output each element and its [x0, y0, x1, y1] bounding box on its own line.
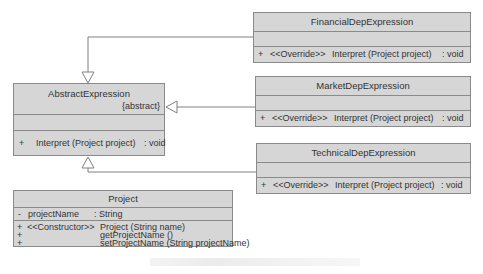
method-visibility: +	[261, 180, 266, 190]
figure-caption-blurred	[150, 258, 360, 266]
method-stereotype: <<Override>>	[270, 49, 326, 59]
class-name: AbstractExpression	[14, 88, 164, 99]
class-name: FinancialDepExpression	[254, 13, 470, 32]
attributes-compartment	[14, 115, 164, 131]
attributes-compartment	[254, 32, 470, 47]
methods-compartment: + <<Override>> Interpret (Project projec…	[257, 178, 470, 193]
class-header: AbstractExpression {abstract}	[14, 84, 164, 115]
method-stereotype: <<Override>>	[273, 180, 329, 190]
class-name: TechnicalDepExpression	[257, 144, 470, 163]
class-financial-dep-expression[interactable]: FinancialDepExpression + <<Override>> In…	[253, 12, 471, 63]
class-market-dep-expression[interactable]: MarketDepExpression + <<Override>> Inter…	[255, 76, 471, 127]
class-name: Project	[14, 191, 232, 208]
attributes-compartment: - projectName : String	[14, 208, 232, 221]
attribute-visibility: -	[18, 209, 21, 219]
methods-compartment: + <<Constructor>> Project (String name) …	[14, 221, 232, 246]
attributes-compartment	[257, 163, 470, 178]
methods-compartment: + <<Override>> Interpret (Project projec…	[256, 111, 470, 126]
class-stereotype: {abstract}	[122, 101, 160, 111]
method-signature: Interpret (Project project)	[36, 138, 136, 148]
method-stereotype: <<Override>>	[272, 113, 328, 123]
method-visibility: +	[19, 138, 24, 148]
generalization-arrowhead-bottom-icon	[82, 157, 94, 168]
methods-compartment: + <<Override>> Interpret (Project projec…	[254, 47, 470, 62]
attributes-compartment	[256, 96, 470, 111]
method-signature: Interpret (Project project)	[334, 113, 434, 123]
method-return: : void	[441, 180, 463, 190]
class-name: MarketDepExpression	[256, 77, 470, 96]
generalization-arrowhead-right-icon	[166, 101, 177, 113]
method-signature: Interpret (Project project)	[332, 49, 432, 59]
method-signature: setProjectName (String projectName)	[100, 238, 250, 248]
attribute-name: projectName	[28, 209, 79, 219]
generalization-arrowhead-top-icon	[82, 72, 94, 83]
technical-generalization-line	[88, 168, 256, 172]
method-visibility: +	[260, 113, 265, 123]
method-signature: Interpret (Project project)	[335, 180, 435, 190]
method-return: : void	[442, 49, 464, 59]
method-stereotype: <<Constructor>>	[27, 222, 95, 232]
class-technical-dep-expression[interactable]: TechnicalDepExpression + <<Override>> In…	[256, 143, 471, 194]
class-project[interactable]: Project - projectName : String + <<Const…	[13, 190, 233, 247]
class-abstract-expression[interactable]: AbstractExpression {abstract} + Interpre…	[13, 83, 165, 156]
method-visibility: +	[258, 49, 263, 59]
method-return: : void	[144, 138, 166, 148]
financial-generalization-line	[88, 37, 253, 72]
attribute-type: : String	[94, 209, 123, 219]
method-visibility: +	[17, 238, 22, 248]
methods-compartment: + Interpret (Project project) : void	[14, 131, 164, 155]
method-return: : void	[442, 113, 464, 123]
